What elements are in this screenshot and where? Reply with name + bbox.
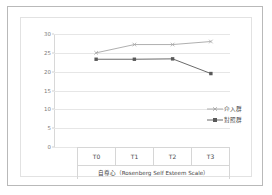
ytick-label-15: 15 <box>44 88 51 94</box>
chart-object-frame[interactable]: 30 25 20 15 10 5 0 T0 <box>20 17 252 177</box>
legend-label-control: 對照群 <box>224 116 242 124</box>
x-axis-label-row: T0 T1 T2 T3 <box>77 148 230 165</box>
x-axis-cell-t0: T0 <box>77 148 116 165</box>
ytick-label-5: 5 <box>47 125 51 131</box>
series-layer <box>54 34 230 147</box>
x-axis-caption: 自尊心（Rosenberg Self Esteem Scale） <box>77 165 230 179</box>
chart-legend: 介入群 對照群 <box>207 103 265 125</box>
legend-label-intervention: 介入群 <box>224 105 242 113</box>
data-point-1-3 <box>209 72 212 75</box>
page-frame: 30 25 20 15 10 5 0 T0 <box>7 6 263 186</box>
legend-item-control[interactable]: 對照群 <box>207 114 265 125</box>
legend-item-intervention[interactable]: 介入群 <box>207 103 265 114</box>
legend-marker-square-icon <box>207 116 223 124</box>
series-line-1 <box>96 59 211 74</box>
data-point-1-2 <box>171 57 174 60</box>
series-group <box>94 40 212 76</box>
legend-marker-cross-icon <box>207 105 223 113</box>
ytick-label-10: 10 <box>44 106 51 112</box>
ytick-label-20: 20 <box>44 69 51 75</box>
x-axis-cell-t1: T1 <box>115 148 154 165</box>
x-axis-cell-t3: T3 <box>191 148 230 165</box>
x-axis-cell-t2: T2 <box>153 148 192 165</box>
series-line-0 <box>96 42 211 53</box>
data-point-1-0 <box>94 58 97 61</box>
data-point-1-1 <box>133 58 136 61</box>
ytick-label-30: 30 <box>44 31 51 37</box>
ytick-label-0: 0 <box>47 144 51 150</box>
ytick-label-25: 25 <box>44 50 51 56</box>
x-axis-table: T0 T1 T2 T3 自尊心（Rosenberg Self Esteem Sc… <box>77 147 230 179</box>
plot-area: 30 25 20 15 10 5 0 <box>54 34 230 147</box>
